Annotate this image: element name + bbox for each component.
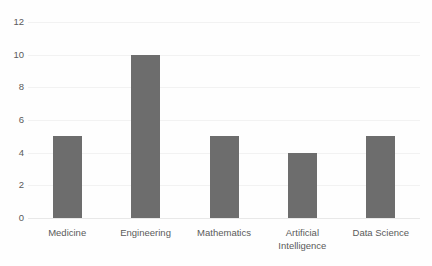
plot-area [28,22,420,218]
x-axis-tick-label: Artificial Intelligence [263,226,341,252]
bar [288,153,317,218]
x-axis: MedicineEngineeringMathematicsArtificial… [28,221,420,266]
x-axis-tick-label: Engineering [106,226,184,239]
y-axis-tick-label: 8 [2,83,24,93]
y-axis-tick-label: 4 [2,148,24,158]
y-axis-tick-label: 6 [2,115,24,125]
y-axis-tick-label: 2 [2,181,24,191]
bar-chart: 024681012 MedicineEngineeringMathematics… [0,0,432,266]
x-axis-tick-label: Mathematics [185,226,263,239]
y-axis: 024681012 [0,22,24,218]
y-axis-tick-label: 0 [2,213,24,223]
bar [131,55,160,218]
bar [366,136,395,218]
y-axis-tick-label: 10 [2,50,24,60]
bars [28,22,420,218]
bar [53,136,82,218]
bar [210,136,239,218]
x-axis-tick-label: Medicine [28,226,106,239]
x-axis-tick-label: Data Science [342,226,420,239]
y-axis-tick-label: 12 [2,17,24,27]
gridline [28,218,420,219]
